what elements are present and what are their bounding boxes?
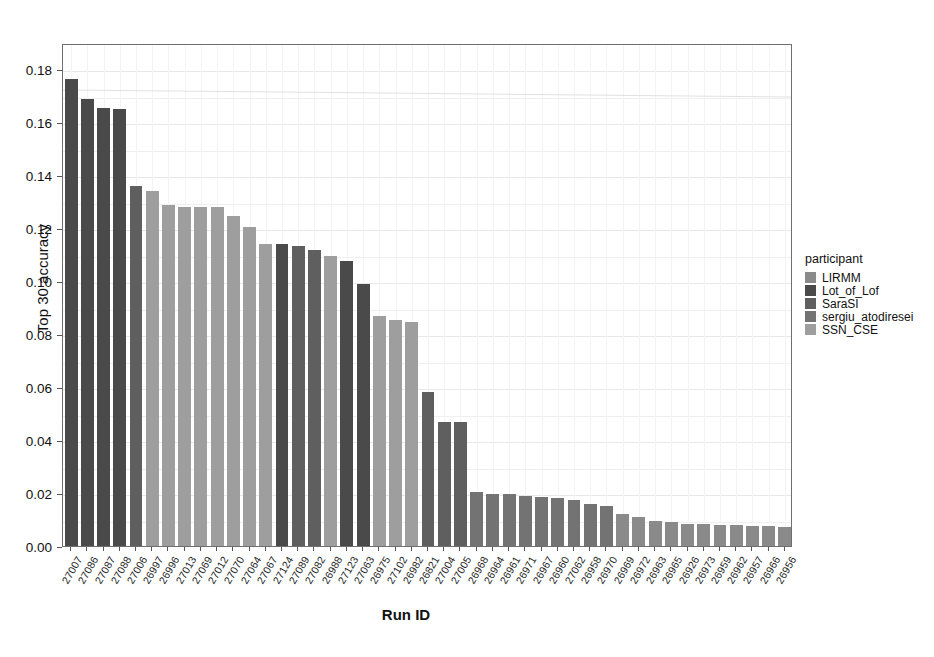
bar-chart: Top 30 accuracy 0.000.020.040.060.080.10… [0,0,934,657]
x-axis-title: Run ID [0,606,812,623]
bar[interactable] [324,256,337,546]
y-tick-label: 0.12 [26,222,52,237]
x-tick-mark [508,547,509,551]
bar[interactable] [81,99,94,546]
bar[interactable] [308,250,321,547]
x-tick-mark [654,547,655,551]
bar[interactable] [730,525,743,546]
legend-item-label: SaraSI [822,298,859,310]
bar[interactable] [227,216,240,546]
bar[interactable] [665,522,678,546]
bar[interactable] [194,207,207,546]
bar[interactable] [503,494,516,546]
x-tick-mark [622,547,623,551]
bar[interactable] [568,500,581,546]
bar[interactable] [551,498,564,546]
legend-item[interactable]: SSN_CSE [805,323,933,336]
legend-title: participant [805,252,933,266]
y-tick-label: 0.00 [26,540,52,555]
bar[interactable] [340,261,353,546]
x-tick-mark [703,547,704,551]
legend-item[interactable]: LIRMM [805,271,933,284]
legend-color-swatch [805,311,816,322]
legend-item[interactable]: SaraSI [805,297,933,310]
legend-item-label: sergiu_atodiresei [822,311,913,323]
x-tick-mark [200,547,201,551]
x-tick-mark [476,547,477,551]
bar[interactable] [470,492,483,546]
x-tick-mark [86,547,87,551]
x-tick-mark [492,547,493,551]
bar[interactable] [130,186,143,546]
x-tick-mark [184,547,185,551]
legend-item-label: SSN_CSE [822,324,878,336]
x-tick-mark [541,547,542,551]
bar[interactable] [243,227,256,546]
bar[interactable] [600,506,613,546]
bar[interactable] [65,79,78,546]
bar[interactable] [97,108,110,546]
bar[interactable] [649,521,662,546]
x-tick-mark [784,547,785,551]
bar[interactable] [714,525,727,546]
x-tick-mark [427,547,428,551]
legend-item-label: LIRMM [822,272,861,284]
x-tick-mark [768,547,769,551]
bar[interactable] [259,244,272,546]
x-tick-mark [70,547,71,551]
x-tick-mark [103,547,104,551]
bar[interactable] [746,526,759,546]
bar[interactable] [438,422,451,546]
bar[interactable] [454,422,467,546]
legend-color-swatch [805,324,816,335]
bar[interactable] [405,322,418,546]
y-tick-label: 0.06 [26,381,52,396]
bar[interactable] [146,191,159,546]
x-tick-mark [557,547,558,551]
x-tick-mark [249,547,250,551]
bar[interactable] [762,526,775,546]
bar[interactable] [681,524,694,547]
x-tick-mark [751,547,752,551]
bar[interactable] [211,207,224,546]
x-tick-mark [411,547,412,551]
x-tick-mark [605,547,606,551]
y-tick-label: 0.14 [26,169,52,184]
bar[interactable] [276,244,289,546]
bar[interactable] [697,524,710,547]
bar[interactable] [113,109,126,546]
legend: participant LIRMMLot_of_LofSaraSIsergiu_… [805,252,933,336]
x-tick-mark [362,547,363,551]
bar[interactable] [535,497,548,546]
legend-item[interactable]: Lot_of_Lof [805,284,933,297]
bar[interactable] [486,494,499,546]
x-tick-mark [167,547,168,551]
x-tick-mark [135,547,136,551]
x-tick-mark [216,547,217,551]
bar[interactable] [178,207,191,546]
bar[interactable] [584,504,597,546]
x-tick-mark [313,547,314,551]
x-tick-mark [589,547,590,551]
bar[interactable] [519,496,532,546]
bar[interactable] [616,514,629,546]
bar[interactable] [162,205,175,547]
legend-color-swatch [805,298,816,309]
x-tick-mark [346,547,347,551]
bar[interactable] [292,246,305,546]
x-tick-mark [719,547,720,551]
bar[interactable] [422,392,435,546]
bar[interactable] [373,316,386,546]
legend-item[interactable]: sergiu_atodiresei [805,310,933,323]
bar[interactable] [357,284,370,546]
bar[interactable] [778,527,791,546]
bar[interactable] [632,517,645,546]
bar[interactable] [389,320,402,546]
y-tick-label: 0.08 [26,328,52,343]
legend-color-swatch [805,272,816,283]
legend-items: LIRMMLot_of_LofSaraSIsergiu_atodireseiSS… [805,271,933,336]
x-tick-mark [395,547,396,551]
x-tick-mark [151,547,152,551]
y-tick-label: 0.02 [26,487,52,502]
x-tick-mark [638,547,639,551]
